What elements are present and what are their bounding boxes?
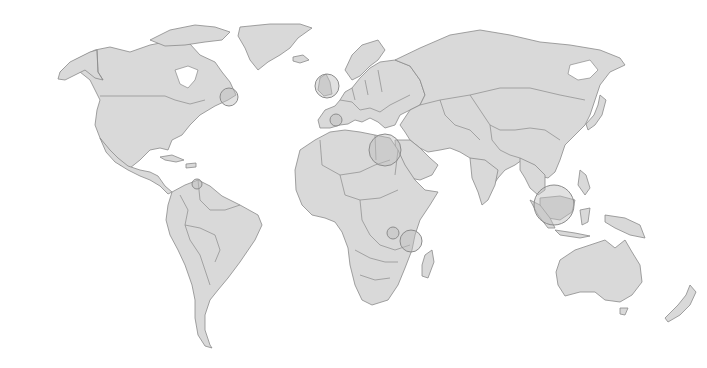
australia[interactable] [556,240,642,302]
philippines[interactable] [578,170,590,195]
marker-newfoundland[interactable] [220,88,238,106]
iceland[interactable] [293,55,309,63]
marker-borneo[interactable] [534,185,574,225]
madagascar[interactable] [422,250,434,278]
south-america[interactable] [166,180,262,348]
sulawesi[interactable] [580,208,590,225]
tasmania[interactable] [620,308,628,315]
marker-kenya[interactable] [400,230,422,252]
alaska[interactable] [58,50,103,80]
cuba[interactable] [160,155,184,162]
world-map-svg [0,0,707,368]
marker-egypt[interactable] [369,134,401,166]
arctic-islands[interactable] [150,25,230,46]
marker-venezuela-trinidad[interactable] [192,179,202,189]
java[interactable] [555,230,590,238]
marker-united-kingdom[interactable] [315,74,339,98]
marker-rwanda-burundi[interactable] [387,227,399,239]
hispaniola[interactable] [186,163,196,168]
new-guinea[interactable] [605,215,645,238]
new-zealand[interactable] [665,285,696,322]
marker-balearic-spain[interactable] [330,114,342,126]
world-map [0,0,707,368]
